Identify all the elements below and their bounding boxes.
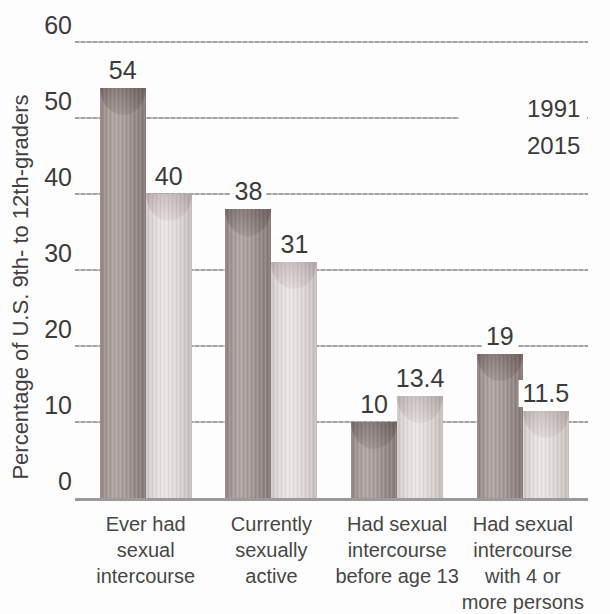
bar-top-shading [146, 194, 192, 221]
bar-1991-category-3 [477, 354, 523, 498]
bar-top-shading [523, 411, 569, 438]
legend-label-1991: 1991 [527, 95, 580, 123]
x-axis-line [75, 498, 588, 501]
bar-chart: Percentage of U.S. 9th- to 12th-graders … [0, 0, 610, 614]
bar-2015-category-2 [397, 396, 443, 498]
legend-row-1991: 1991 [466, 95, 580, 123]
bar-top-shading [100, 88, 146, 115]
bar-top-shading [351, 422, 397, 449]
y-tick-20: 20 [14, 315, 72, 344]
legend-swatch-1991 [466, 97, 514, 122]
legend: 19912015 [459, 86, 587, 167]
bar-2015-category-3 [523, 411, 569, 498]
bar-1991-category-1 [225, 209, 271, 498]
value-label-1991-category-1: 38 [230, 178, 266, 205]
value-label-2015-category-2: 13.4 [392, 365, 449, 392]
gridline-60 [75, 41, 588, 43]
y-tick-0: 0 [14, 467, 72, 496]
bar-2015-category-0 [146, 194, 192, 498]
y-tick-30: 30 [14, 239, 72, 268]
bar-top-shading [271, 262, 317, 289]
value-label-2015-category-0: 40 [151, 163, 187, 190]
y-axis-title: Percentage of U.S. 9th- to 12th-graders [8, 82, 36, 492]
y-tick-40: 40 [14, 163, 72, 192]
y-tick-50: 50 [14, 87, 72, 116]
bar-top-shading [477, 354, 523, 381]
y-tick-10: 10 [14, 391, 72, 420]
legend-row-2015: 2015 [466, 132, 580, 160]
bar-top-shading [397, 396, 443, 423]
legend-label-2015: 2015 [527, 132, 580, 160]
value-label-1991-category-0: 54 [105, 57, 141, 84]
category-label-3: Had sexual intercourse with 4 or more pe… [443, 511, 603, 614]
value-label-1991-category-3: 19 [482, 323, 518, 350]
value-label-1991-category-2: 10 [356, 391, 392, 418]
value-label-2015-category-3: 11.5 [518, 380, 573, 407]
bar-top-shading [225, 209, 271, 236]
y-tick-60: 60 [14, 11, 72, 40]
bar-1991-category-2 [351, 422, 397, 498]
bar-2015-category-1 [271, 262, 317, 498]
legend-swatch-2015 [466, 134, 514, 159]
bar-1991-category-0 [100, 88, 146, 498]
value-label-2015-category-1: 31 [276, 231, 312, 258]
